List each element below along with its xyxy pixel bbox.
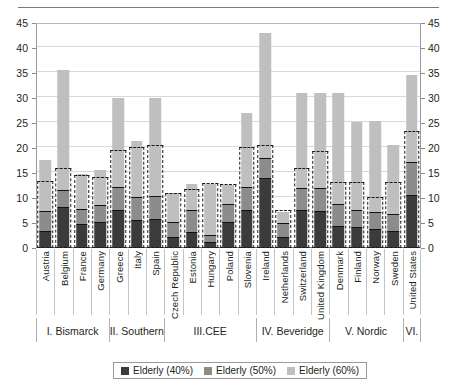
group-separator bbox=[109, 318, 110, 342]
bar-group bbox=[109, 23, 127, 248]
y-axis-tick-mark-right bbox=[421, 223, 425, 224]
category-separator bbox=[73, 249, 74, 315]
y-axis-tick-label-left: 0 bbox=[6, 242, 28, 254]
bar-group bbox=[183, 23, 201, 248]
bar-group bbox=[329, 23, 347, 248]
poverty-threshold-envelope bbox=[74, 175, 90, 249]
legend-label: Elderly (60%) bbox=[299, 365, 359, 376]
legend-item: Elderly (50%) bbox=[204, 365, 276, 376]
y-axis-tick-label-left: 45 bbox=[6, 17, 28, 29]
x-axis-category-label: Finland bbox=[352, 251, 363, 283]
bar-group bbox=[256, 23, 274, 248]
y-axis-tick-mark-right bbox=[421, 123, 425, 124]
poverty-threshold-envelope bbox=[147, 145, 163, 248]
category-separator bbox=[54, 249, 55, 315]
y-axis-tick-label-left: 25 bbox=[6, 117, 28, 129]
poverty-threshold-envelope bbox=[257, 145, 273, 249]
x-axis-group-label: IV. Beveridge bbox=[256, 325, 329, 337]
poverty-threshold-envelope bbox=[404, 131, 420, 249]
y-axis-tick-mark-right bbox=[421, 248, 425, 249]
y-axis-tick-mark-left bbox=[32, 73, 36, 74]
group-separator bbox=[420, 318, 421, 342]
x-axis-category-label: Greece bbox=[114, 251, 125, 283]
bar-group bbox=[348, 23, 366, 248]
y-axis-tick-label-left: 40 bbox=[6, 42, 28, 54]
y-axis-tick-mark-left bbox=[32, 173, 36, 174]
x-axis-category-label: Spain bbox=[150, 251, 161, 276]
y-axis-tick-mark-right bbox=[421, 73, 425, 74]
category-separator bbox=[183, 249, 184, 315]
y-axis-tick-mark-left bbox=[32, 198, 36, 199]
x-axis-category-label: France bbox=[77, 251, 88, 281]
bar-group bbox=[366, 23, 384, 248]
x-axis-category-label: Germany bbox=[95, 251, 106, 291]
x-axis-group-label: VI. bbox=[403, 325, 421, 337]
y-axis-tick-mark-right bbox=[421, 198, 425, 199]
y-axis-tick-label-right: 15 bbox=[428, 167, 450, 179]
bar-group bbox=[274, 23, 292, 248]
poverty-threshold-envelope bbox=[202, 183, 218, 248]
y-axis-tick-mark-left bbox=[32, 98, 36, 99]
y-axis-tick-mark-left bbox=[32, 223, 36, 224]
y-axis-tick-label-right: 40 bbox=[428, 42, 450, 54]
x-axis-category-labels: AustriaBelgiumFranceGermanyGreeceItalySp… bbox=[36, 249, 421, 319]
poverty-threshold-envelope bbox=[294, 168, 310, 248]
x-axis-group-label: III.CEE bbox=[164, 325, 256, 337]
y-axis-tick-label-right: 25 bbox=[428, 117, 450, 129]
poverty-threshold-envelope bbox=[56, 168, 72, 249]
bar-group bbox=[36, 23, 54, 248]
bar-group bbox=[311, 23, 329, 248]
category-separator bbox=[128, 249, 129, 315]
legend-swatch-icon bbox=[204, 367, 212, 375]
y-axis-tick-mark-left bbox=[32, 23, 36, 24]
bar-group bbox=[128, 23, 146, 248]
x-axis-category-label: Norway bbox=[370, 251, 381, 284]
bar-group bbox=[238, 23, 256, 248]
legend-swatch-icon bbox=[121, 367, 129, 375]
x-axis-category-label: Denmark bbox=[334, 251, 345, 290]
bar-group bbox=[293, 23, 311, 248]
poverty-threshold-envelope bbox=[367, 197, 383, 248]
x-axis-category-label: Poland bbox=[224, 251, 235, 281]
poverty-threshold-envelope bbox=[166, 193, 182, 248]
bar-group bbox=[164, 23, 182, 248]
y-axis-tick-label-right: 5 bbox=[428, 217, 450, 229]
poverty-threshold-envelope bbox=[221, 184, 237, 248]
category-separator bbox=[238, 249, 239, 315]
group-separator bbox=[256, 318, 257, 342]
bar-group bbox=[201, 23, 219, 248]
category-separator bbox=[293, 249, 294, 315]
category-separator bbox=[420, 249, 421, 315]
category-separator bbox=[109, 249, 110, 315]
group-separator bbox=[329, 318, 330, 342]
y-axis-tick-mark-right bbox=[421, 23, 425, 24]
category-separator bbox=[329, 249, 330, 315]
x-axis-category-label: Ireland bbox=[260, 251, 271, 281]
legend-item: Elderly (60%) bbox=[287, 365, 359, 376]
category-separator bbox=[36, 249, 37, 315]
poverty-threshold-envelope bbox=[386, 182, 402, 249]
x-axis-category-label: Italy bbox=[132, 251, 143, 269]
bar-group bbox=[146, 23, 164, 248]
chart-legend: Elderly (40%)Elderly (50%)Elderly (60%) bbox=[113, 362, 367, 379]
x-axis-group-label: II. Southern bbox=[109, 325, 164, 337]
category-separator bbox=[384, 249, 385, 315]
category-separator bbox=[348, 249, 349, 315]
x-axis-category-label: Hungary bbox=[205, 251, 216, 288]
bar-segment-elderly-60 bbox=[259, 33, 271, 159]
bar-group bbox=[91, 23, 109, 248]
poverty-threshold-envelope bbox=[239, 147, 255, 249]
x-axis-group-label: I. Bismarck bbox=[36, 325, 109, 337]
y-axis-tick-label-right: 35 bbox=[428, 67, 450, 79]
y-axis-tick-label-right: 30 bbox=[428, 92, 450, 104]
y-axis-tick-mark-right bbox=[421, 98, 425, 99]
y-axis-tick-mark-left bbox=[32, 48, 36, 49]
y-axis-tick-mark-right bbox=[421, 148, 425, 149]
bar-group bbox=[73, 23, 91, 248]
category-separator bbox=[146, 249, 147, 315]
x-axis-category-label: United States bbox=[407, 251, 418, 309]
x-axis-category-label: Austria bbox=[40, 251, 51, 281]
x-axis-group-labels: I. BismarckII. SouthernIII.CEEIV. Beveri… bbox=[36, 322, 421, 344]
legend-label: Elderly (40%) bbox=[133, 365, 193, 376]
poverty-threshold-envelope bbox=[312, 151, 328, 248]
